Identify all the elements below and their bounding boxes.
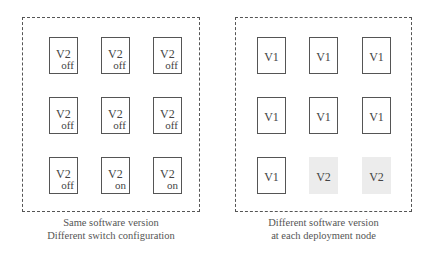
node-box: V1 (362, 97, 391, 134)
node-version-label: V1 (258, 111, 285, 123)
node-version-label: V1 (310, 111, 337, 123)
node-switch-label: off (165, 60, 178, 71)
node-box: V2off (153, 97, 182, 134)
node-box: V1 (309, 97, 338, 134)
node-box: V1 (362, 37, 391, 74)
node-switch-label: off (61, 120, 74, 131)
node-version-label: V2 (363, 171, 390, 183)
node-box: V2on (101, 157, 130, 194)
node-box: V1 (257, 37, 286, 74)
node-version-label: V1 (363, 51, 390, 63)
node-version-label: V1 (310, 51, 337, 63)
right-caption-line2: at each deployment node (235, 229, 412, 242)
node-switch-label: on (115, 180, 126, 191)
node-box: V2off (101, 37, 130, 74)
node-switch-label: on (167, 180, 178, 191)
node-box: V2off (49, 157, 78, 194)
node-box-highlighted: V2 (309, 157, 338, 194)
node-switch-label: off (165, 120, 178, 131)
node-box: V1 (309, 37, 338, 74)
node-version-label: V1 (258, 171, 285, 183)
node-switch-label: off (61, 180, 74, 191)
node-version-label: V2 (310, 171, 337, 183)
left-caption-line1: Same software version (22, 216, 200, 229)
node-version-label: V1 (363, 111, 390, 123)
node-switch-label: off (113, 120, 126, 131)
node-version-label: V1 (258, 51, 285, 63)
left-caption-line2: Different switch configuration (22, 229, 200, 242)
node-switch-label: off (113, 60, 126, 71)
node-box: V1 (257, 157, 286, 194)
node-switch-label: off (61, 60, 74, 71)
node-box: V1 (257, 97, 286, 134)
node-box: V2off (101, 97, 130, 134)
node-box-highlighted: V2 (362, 157, 391, 194)
node-box: V2off (49, 97, 78, 134)
node-box: V2on (153, 157, 182, 194)
node-box: V2off (49, 37, 78, 74)
node-box: V2off (153, 37, 182, 74)
right-caption-line1: Different software version (235, 216, 412, 229)
